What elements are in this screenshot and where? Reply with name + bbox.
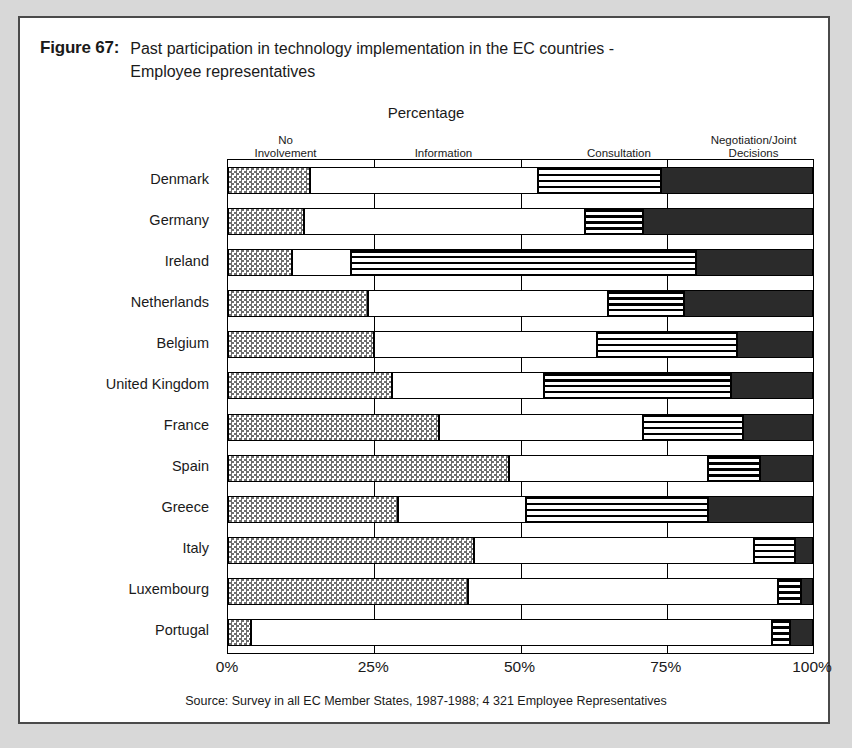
x-axis-labels: 0%25%50%75%100% [227,658,812,680]
bar-segment [585,208,644,235]
bar-segment [392,372,544,399]
chart-axis-title: Percentage [20,104,832,121]
y-axis-label-germany: Germany [149,212,209,228]
bar-segment [251,619,772,646]
bar-segment [228,331,374,358]
bar-segment [597,331,737,358]
bar-row [228,537,813,564]
bar-segment [228,496,398,523]
legend-label-3: Negotiation/JointDecisions [711,134,797,161]
bar-row [228,372,813,399]
bar-segment [661,167,813,194]
bar-segment [228,167,310,194]
bar-row [228,496,813,523]
bar-row [228,414,813,441]
bar-row [228,578,813,605]
bar-segment [292,249,351,276]
y-axis-label-ireland: Ireland [165,253,209,269]
chart-legend: NoInvolvementInformationConsultationNego… [227,125,812,161]
bar-segment [228,537,474,564]
bar-segment [608,290,684,317]
bar-segment [731,372,813,399]
bar-segment [374,331,596,358]
bar-segment [538,167,661,194]
bar-segment [228,290,368,317]
bar-row [228,619,813,646]
bar-segment [351,249,696,276]
x-axis-tick-2: 50% [504,658,535,676]
bar-segment [228,249,292,276]
bar-segment [474,537,755,564]
bar-segment [708,496,813,523]
bar-segment [772,619,790,646]
bar-row [228,208,813,235]
x-axis-tick-3: 75% [650,658,681,676]
y-axis-labels: DenmarkGermanyIrelandNetherlandsBelgiumU… [20,159,219,652]
y-axis-label-portugal: Portugal [155,622,209,638]
bar-segment [509,455,708,482]
bar-segment [801,578,813,605]
bar-segment [228,455,509,482]
x-axis-tick-4: 100% [792,658,832,676]
bar-segment [708,455,761,482]
y-axis-label-united-kingdom: United Kingdom [106,376,209,392]
bar-segment [526,496,707,523]
bar-segment [368,290,608,317]
x-axis-tick-1: 25% [358,658,389,676]
y-axis-label-netherlands: Netherlands [131,294,209,310]
bar-segment [468,578,778,605]
plot-area [227,159,814,654]
bar-segment [743,414,813,441]
bar-segment [737,331,813,358]
bar-segment [228,372,392,399]
y-axis-label-denmark: Denmark [150,171,209,187]
y-axis-label-france: France [164,417,209,433]
bar-segment [778,578,801,605]
bar-segment [684,290,813,317]
bar-segment [790,619,813,646]
bar-segment [304,208,585,235]
bar-row [228,331,813,358]
bar-segment [696,249,813,276]
bar-segment [439,414,644,441]
y-axis-label-luxembourg: Luxembourg [128,581,209,597]
x-axis-tick-0: 0% [216,658,238,676]
legend-label-line1: No [254,134,316,148]
bar-segment [643,208,813,235]
bar-row [228,249,813,276]
source-note: Source: Survey in all EC Member States, … [20,694,832,708]
bar-segment [754,537,795,564]
bar-segment [310,167,538,194]
bar-segment [228,578,468,605]
bar-segment [643,414,742,441]
y-axis-label-italy: Italy [182,540,209,556]
y-axis-label-greece: Greece [161,499,209,515]
y-axis-label-spain: Spain [172,458,209,474]
legend-label-line1: Negotiation/Joint [711,134,797,148]
chart-area: Percentage NoInvolvementInformationConsu… [20,18,832,726]
bar-segment [398,496,527,523]
bar-segment [228,414,439,441]
figure-frame: Figure 67: Past participation in technol… [18,16,830,724]
bar-segment [795,537,813,564]
bar-segment [760,455,813,482]
bar-segment [228,208,304,235]
legend-label-0: NoInvolvement [254,134,316,161]
bar-segment [544,372,731,399]
bar-row [228,455,813,482]
bar-row [228,290,813,317]
bar-row [228,167,813,194]
y-axis-label-belgium: Belgium [157,335,209,351]
bar-segment [228,619,251,646]
